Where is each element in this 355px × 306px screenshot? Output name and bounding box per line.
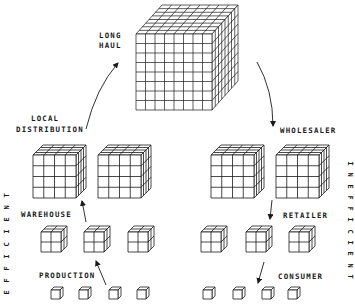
side-label-letter: C xyxy=(346,229,353,233)
label-long-haul-line2: HAUL xyxy=(99,42,122,49)
local-distribution-cube-1 xyxy=(33,145,86,198)
consumer-cube-4 xyxy=(288,287,300,299)
local-distribution-cube-2 xyxy=(98,145,151,198)
arrow-local-to-longhaul xyxy=(86,63,118,129)
label-warehouse: WAREHOUSE xyxy=(21,211,72,218)
production-cube-3 xyxy=(109,287,121,299)
side-label-letter: F xyxy=(346,195,353,199)
side-label-letter: I xyxy=(4,254,11,258)
warehouse-cube-3 xyxy=(128,226,154,252)
production-cube-2 xyxy=(79,287,91,299)
production-cube-1 xyxy=(51,287,63,299)
side-label-letter: I xyxy=(346,218,353,222)
side-label-letter: C xyxy=(4,242,11,246)
arrow-longhaul-to-wholesaler xyxy=(257,62,273,126)
side-label-letter: E xyxy=(4,218,11,222)
side-label-letter: I xyxy=(346,161,353,165)
label-long-haul-line1: LONG xyxy=(99,32,122,39)
wholesaler-cube-1 xyxy=(211,145,264,198)
distribution-diagram xyxy=(0,0,355,306)
side-label-letter: N xyxy=(346,263,353,267)
side-label-letter: I xyxy=(4,230,11,234)
cube-group xyxy=(33,5,329,299)
long-haul-cube xyxy=(136,5,238,110)
label-local-distribution-line1: LOCAL xyxy=(31,115,59,122)
label-wholesaler: WHOLESALER xyxy=(280,127,337,134)
label-production: PRODUCTION xyxy=(39,272,96,279)
side-label-letter: N xyxy=(4,206,11,210)
side-label-inefficient: INEFFICIENT xyxy=(344,160,354,280)
arrow-wholesaler-to-retailer xyxy=(270,200,272,219)
side-label-efficient: EFFICIENT xyxy=(2,192,12,296)
side-label-letter: N xyxy=(346,173,353,177)
wholesaler-cube-2 xyxy=(276,145,329,198)
arrow-production-to-warehouse xyxy=(96,261,106,285)
retailer-cube-3 xyxy=(289,226,315,252)
label-retailer: RETAILER xyxy=(283,212,328,219)
side-label-letter: E xyxy=(346,252,353,256)
label-local-distribution-line2: DISTRIBUTION xyxy=(16,126,84,133)
production-cube-4 xyxy=(137,287,149,299)
side-label-letter: F xyxy=(346,207,353,211)
side-label-letter: E xyxy=(346,184,353,188)
side-label-letter: I xyxy=(346,240,353,244)
arrow-warehouse-to-local xyxy=(82,201,86,222)
arrow-retailer-to-consumer xyxy=(258,262,264,283)
side-label-letter: T xyxy=(346,274,353,278)
retailer-cube-1 xyxy=(201,226,227,252)
side-label-letter: F xyxy=(4,266,11,270)
side-label-letter: F xyxy=(4,278,11,282)
side-label-letter: T xyxy=(4,193,11,197)
consumer-cube-3 xyxy=(262,287,274,299)
side-label-letter: E xyxy=(4,290,11,294)
retailer-cube-2 xyxy=(246,226,272,252)
consumer-cube-1 xyxy=(203,287,215,299)
consumer-cube-2 xyxy=(233,287,245,299)
label-consumer: CONSUMER xyxy=(278,273,323,280)
warehouse-cube-1 xyxy=(41,226,67,252)
warehouse-cube-2 xyxy=(84,226,110,252)
